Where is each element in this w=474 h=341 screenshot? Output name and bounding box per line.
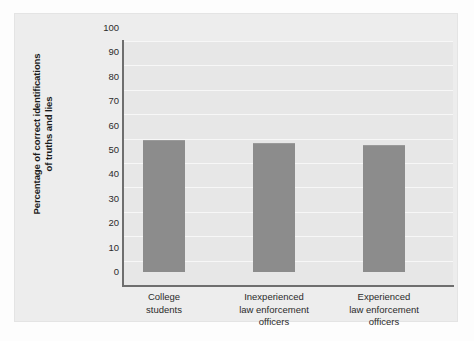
y-axis-tick-label: 60 (93, 121, 119, 131)
y-axis-tick-label: 100 (93, 23, 119, 33)
gridline (123, 114, 453, 115)
y-axis-title-line-2: of truths and lies (43, 49, 55, 219)
x-axis-category-label: Experiencedlaw enforcementofficers (333, 291, 435, 329)
x-axis-line (122, 285, 454, 287)
y-axis-tick-label: 20 (93, 218, 119, 228)
y-axis-line (122, 40, 124, 286)
x-axis-category-label-line: students (113, 304, 215, 317)
bar (253, 143, 295, 272)
y-axis-tick-label: 30 (93, 194, 119, 204)
figure: 1009080706050403020100 Percentage of cor… (0, 0, 474, 341)
x-axis-category-label-line: officers (223, 316, 325, 329)
x-axis-category-label: Collegestudents (113, 291, 215, 316)
gridline (123, 90, 453, 91)
bar (143, 140, 185, 272)
bar (363, 145, 405, 272)
y-axis-title: Percentage of correct identifications of… (31, 49, 55, 219)
x-axis-category-label: Inexperiencedlaw enforcementofficers (223, 291, 325, 329)
y-axis-tick-label: 80 (93, 72, 119, 82)
y-axis-tick-label: 50 (93, 145, 119, 155)
x-axis-category-label-line: Inexperienced (223, 291, 325, 304)
x-axis-category-label-line: College (113, 291, 215, 304)
x-axis-category-label-line: law enforcement (333, 304, 435, 317)
x-axis-category-label-line: law enforcement (223, 304, 325, 317)
chart-panel: 1009080706050403020100 Percentage of cor… (14, 13, 458, 322)
gridline (123, 41, 453, 42)
y-axis-tick-label: 40 (93, 169, 119, 179)
y-axis-tick-label: 70 (93, 96, 119, 106)
y-axis-title-line-1: Percentage of correct identifications (31, 49, 43, 219)
y-axis-tick-label: 0 (93, 267, 119, 277)
gridline (123, 65, 453, 66)
y-axis-tick-label: 10 (93, 243, 119, 253)
x-axis-category-label-line: Experienced (333, 291, 435, 304)
x-axis-category-label-line: officers (333, 316, 435, 329)
y-axis-tick-label: 90 (93, 47, 119, 57)
